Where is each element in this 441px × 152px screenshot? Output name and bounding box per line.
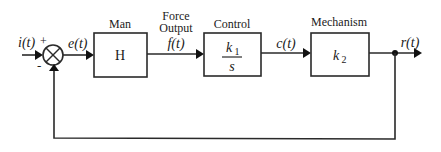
control-block: Control k 1 s — [204, 17, 261, 76]
man-block: Man H — [94, 17, 147, 77]
control-arrowhead-icon — [303, 48, 311, 58]
block-diagram: i(t) + - e(t) Man H Force Output f(t) Co… — [0, 0, 441, 152]
control-denominator: s — [229, 59, 235, 74]
output-signal-label: r(t) — [401, 35, 420, 51]
mechanism-block-title: Mechanism — [311, 15, 368, 29]
input-signal-label: i(t) — [18, 35, 35, 51]
force-signal-label: f(t) — [167, 36, 184, 52]
man-block-content: H — [115, 48, 125, 63]
error-arrowhead-icon — [86, 50, 94, 60]
force-label-line2: Output — [159, 21, 193, 35]
control-block-title: Control — [214, 17, 251, 31]
input-plus-sign: + — [40, 34, 47, 48]
control-signal-label: c(t) — [276, 36, 296, 52]
mechanism-block-subscript: 2 — [342, 54, 347, 65]
summing-junction — [43, 45, 63, 65]
control-numerator: k — [226, 40, 233, 55]
feedback-minus-sign: - — [37, 58, 41, 73]
mechanism-block: Mechanism k 2 — [311, 15, 369, 76]
control-numerator-subscript: 1 — [235, 46, 240, 57]
error-signal-label: e(t) — [68, 36, 88, 52]
mechanism-block-content: k — [333, 48, 340, 63]
man-block-title: Man — [109, 17, 131, 31]
force-arrowhead-icon — [196, 49, 204, 59]
